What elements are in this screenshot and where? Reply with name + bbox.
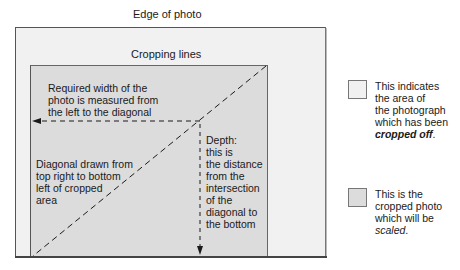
diagonal-note-line: Diagonal drawn from [36, 158, 133, 170]
depth-note-line: the distance [206, 158, 263, 170]
depth-note-line: this is [206, 146, 263, 158]
diagonal-note-line: area [36, 194, 133, 206]
width-note-line: Required width of the [48, 82, 158, 94]
diagonal-note: Diagonal drawn from top right to bottom … [36, 158, 133, 206]
depth-note-line: the bottom [206, 218, 263, 230]
diagonal-note-line: left of cropped [36, 182, 133, 194]
width-note-line: the left to the diagonal [48, 106, 158, 118]
legend-line: This indicates [375, 80, 448, 92]
legend-emphasis: scaled [375, 224, 405, 236]
cropped-photo-swatch [348, 188, 367, 207]
legend-line: which has been [375, 116, 448, 128]
cropped-off-swatch [348, 80, 367, 99]
legend-line: cropped photo [375, 200, 442, 212]
legend-suffix: . [433, 128, 436, 140]
depth-note-line: from the [206, 170, 263, 182]
depth-note-line: of the [206, 194, 263, 206]
width-note: Required width of the photo is measured … [48, 82, 158, 118]
depth-note-line: intersection [206, 182, 263, 194]
depth-note-line: Depth: [206, 134, 263, 146]
legend-line: which will be [375, 212, 442, 224]
depth-note-line: diagonal to [206, 206, 263, 218]
depth-note: Depth: this is the distance from the int… [206, 134, 263, 230]
cropped-off-legend: This indicates the area of the photograp… [375, 80, 448, 140]
cropped-photo-legend: This is the cropped photo which will be … [375, 188, 442, 236]
legend-emphasis: cropped off [375, 128, 433, 140]
legend-line: the photograph [375, 104, 448, 116]
diagonal-note-line: top right to bottom [36, 170, 133, 182]
down-arrow-icon [197, 246, 203, 255]
legend-line: This is the [375, 188, 442, 200]
legend-suffix: . [405, 224, 408, 236]
left-arrow-icon [32, 118, 41, 124]
legend-line: the area of [375, 92, 448, 104]
width-note-line: photo is measured from [48, 94, 158, 106]
